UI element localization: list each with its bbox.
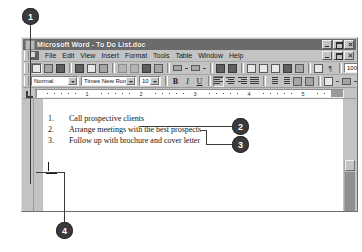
bold-button[interactable]: B [170,76,181,87]
scrollbar-up-button[interactable] [345,160,355,171]
list-item-number: 1. [48,113,69,124]
insert-table-icon[interactable] [258,63,269,74]
ruler-number-3: 3 [193,90,196,98]
chevron-down-icon[interactable] [126,77,135,85]
window-bottom-area [23,211,356,212]
callout-3: 3 [232,136,249,153]
cut-icon[interactable] [117,63,128,74]
document-page[interactable]: 1. Call prospective clients 2. Arrange m… [33,99,343,211]
menubar-grip[interactable] [24,51,29,60]
menu-item-edit[interactable]: Edit [59,52,77,59]
document-minimize-button[interactable] [322,51,332,60]
print-icon[interactable] [74,63,85,74]
bulleted-list-icon[interactable] [280,76,291,87]
selection-bar[interactable] [34,99,43,211]
toolbar-separator [241,63,244,73]
align-left-glyph [214,77,223,85]
justify-icon[interactable] [249,76,260,87]
print-preview-icon[interactable] [86,63,97,74]
callout-3-leader-line-vertical [206,130,207,145]
menu-item-help[interactable]: Help [226,52,246,59]
show-formatting-marks-icon[interactable]: ¶ [325,63,336,74]
new-document-icon[interactable] [31,63,42,74]
spelling-grammar-icon[interactable] [98,63,109,74]
font-combobox[interactable]: Times New Roman [81,76,137,86]
increase-indent-icon[interactable] [304,76,315,87]
style-combobox[interactable]: Normal [31,76,79,86]
italic-button[interactable]: I [182,76,193,87]
columns-icon[interactable] [282,63,293,74]
menu-item-table[interactable]: Table [172,52,195,59]
close-button[interactable] [344,40,354,49]
vertical-scrollbar-tail[interactable] [345,211,356,212]
standard-toolbar-grip[interactable] [24,63,29,73]
menu-item-insert[interactable]: Insert [98,52,122,59]
zoom-combobox[interactable]: 100% [344,63,358,73]
paste-icon[interactable] [141,63,152,74]
save-icon[interactable] [55,63,66,74]
highlight-dropdown-icon[interactable] [353,76,358,87]
menu-item-format[interactable]: Format [122,52,150,59]
underline-button[interactable]: U [194,76,205,87]
window-titlebar[interactable]: Microsoft Word - To Do List.doc [23,39,356,50]
document-close-button[interactable] [344,51,354,60]
callout-2: 2 [232,118,249,135]
numbered-list-glyph [269,77,278,85]
drawing-icon[interactable] [294,63,305,74]
highlight-icon[interactable] [341,76,352,87]
toolbar-separator [318,76,321,86]
redo-dropdown-icon[interactable] [202,63,207,74]
chevron-down-icon[interactable] [150,77,159,85]
tables-and-borders-icon[interactable] [246,63,257,74]
menu-item-view[interactable]: View [77,52,98,59]
menu-item-tools[interactable]: Tools [150,52,172,59]
ruler-number-1: 1 [85,90,88,98]
figure-canvas: Microsoft Word - To Do List.doc File Edi… [0,0,362,252]
align-center-icon[interactable] [225,76,236,87]
borders-dropdown-icon[interactable] [335,76,340,87]
menu-bar: File Edit View Insert Format Tools Table… [23,50,356,62]
toolbar-separator [208,76,211,86]
toolbar-separator [263,76,266,86]
ruler-number-5: 5 [301,90,304,98]
document-control-icon[interactable] [30,51,39,60]
copy-icon[interactable] [129,63,140,74]
ruler-right-indent-marker[interactable] [331,90,343,98]
align-right-icon[interactable] [237,76,248,87]
redo-icon[interactable] [190,63,201,74]
menu-item-file[interactable]: File [42,52,59,59]
callout-3-leader-line-hook [200,130,207,131]
vertical-scrollbar[interactable] [344,160,355,211]
align-left-icon[interactable] [213,76,224,87]
callout-4-leader-line-vertical [64,172,65,224]
open-icon[interactable] [43,63,54,74]
web-toolbar-icon[interactable] [227,63,238,74]
font-size-combobox[interactable]: 10 [139,76,161,86]
callout-2-leader-line [140,126,234,127]
insert-excel-worksheet-icon[interactable] [270,63,281,74]
toolbar-separator [112,63,115,73]
align-right-glyph [238,77,247,85]
microsoft-word-window: Microsoft Word - To Do List.doc File Edi… [21,37,358,212]
ruler-strip[interactable]: 1 2 3 4 5 [36,89,344,98]
app-window-buttons [322,40,354,49]
restore-button[interactable] [333,40,343,49]
borders-icon[interactable] [323,76,334,87]
document-map-icon[interactable] [313,63,324,74]
decrease-indent-icon[interactable] [292,76,303,87]
insert-hyperlink-icon[interactable] [215,63,226,74]
scrollbar-track[interactable] [345,172,355,211]
undo-dropdown-icon[interactable] [184,63,189,74]
toolbar-separator [210,63,213,73]
menu-item-window[interactable]: Window [195,52,226,59]
minimize-button[interactable] [322,40,332,49]
insertion-point-caret [48,162,49,171]
numbered-list-icon[interactable] [268,76,279,87]
format-painter-icon[interactable] [153,63,164,74]
horizontal-ruler[interactable]: 1 2 3 4 5 [23,88,356,99]
formatting-toolbar-grip[interactable] [24,76,29,86]
chevron-down-icon[interactable] [68,77,77,85]
undo-icon[interactable] [172,63,183,74]
toolbar-separator [69,63,72,73]
document-restore-button[interactable] [333,51,343,60]
